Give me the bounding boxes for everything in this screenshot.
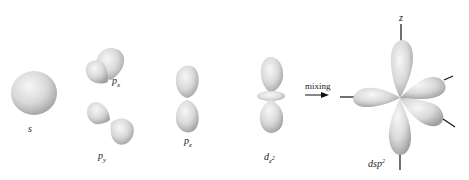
py-orbital — [87, 102, 134, 145]
mixing-label: mixing — [305, 81, 331, 91]
s-orbital — [11, 71, 57, 115]
orbital-diagram — [0, 0, 469, 180]
mixing-arrow — [305, 92, 329, 98]
dz2-orbital — [257, 57, 285, 133]
dsp2-label: dsp2 — [368, 158, 385, 169]
py-label: py — [98, 151, 106, 164]
pz-label: pz — [184, 136, 192, 149]
dsp2-hybrid-orbital — [340, 24, 455, 170]
px-label: px — [112, 76, 120, 89]
s-label: s — [28, 124, 32, 134]
pz-orbital — [176, 65, 199, 132]
z-axis-label: z — [399, 13, 403, 23]
dz2-label: dz2 — [264, 152, 275, 165]
